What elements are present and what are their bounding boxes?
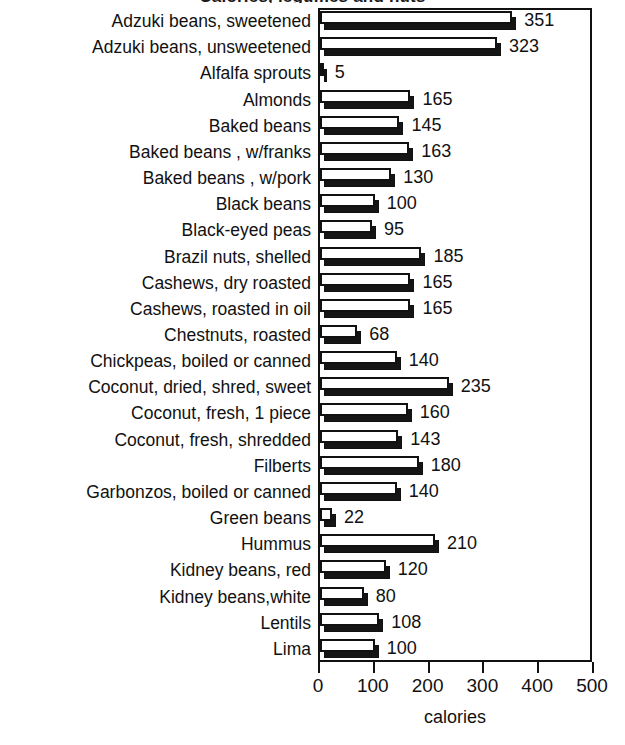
bar-value-label: 5 <box>335 63 345 82</box>
bar-face <box>320 430 398 443</box>
bar-face <box>320 273 410 286</box>
bar-face <box>320 168 391 181</box>
chart-row: Kidney beans,white80 <box>0 584 625 610</box>
bar-face <box>320 247 421 260</box>
bar <box>320 194 381 214</box>
bar <box>320 63 329 83</box>
bar-face <box>320 456 419 469</box>
bar-value-label: 95 <box>384 220 404 239</box>
chart-row: Chestnuts, roasted68 <box>0 322 625 348</box>
x-axis-tick <box>592 662 594 673</box>
x-axis-tick-label: 0 <box>313 675 324 697</box>
category-label: Coconut, dried, shred, sweet <box>88 378 311 397</box>
x-axis-tick <box>537 662 539 673</box>
bar-value-label: 120 <box>398 560 428 579</box>
bar-chart: Adzuki beans, sweetened351Adzuki beans, … <box>0 0 625 745</box>
category-label: Chickpeas, boiled or canned <box>90 352 311 371</box>
bar <box>320 534 441 554</box>
category-label: Coconut, fresh, 1 piece <box>131 404 311 423</box>
category-label: Coconut, fresh, shredded <box>114 430 311 449</box>
category-label: Kidney beans,white <box>159 587 311 606</box>
bar <box>320 613 385 633</box>
bar-face <box>320 194 375 207</box>
bar-face <box>320 482 397 495</box>
chart-row: Coconut, fresh, 1 piece160 <box>0 400 625 426</box>
category-label: Adzuki beans, unsweetened <box>92 38 311 57</box>
category-label: Baked beans <box>209 116 311 135</box>
bar-face <box>320 560 386 573</box>
bar <box>320 168 397 188</box>
bar-face <box>320 325 357 338</box>
chart-row: Cashews, dry roasted165 <box>0 270 625 296</box>
bar-value-label: 165 <box>422 89 452 108</box>
x-axis-tick <box>318 662 320 673</box>
category-label: Lentils <box>260 613 311 632</box>
bar-value-label: 22 <box>344 508 364 527</box>
x-axis-tick <box>428 662 430 673</box>
bar-face <box>320 639 375 652</box>
x-axis-tick-label: 100 <box>357 675 389 697</box>
bar-value-label: 235 <box>461 377 491 396</box>
category-label: Alfalfa sprouts <box>200 64 311 83</box>
bar-face <box>320 142 409 155</box>
x-axis-tick-labels: 0100200300400500 <box>318 675 592 699</box>
bar-value-label: 165 <box>422 298 452 317</box>
chart-row: Baked beans145 <box>0 113 625 139</box>
bar-value-label: 180 <box>431 455 461 474</box>
bar-value-label: 160 <box>420 403 450 422</box>
category-label: Almonds <box>243 90 311 109</box>
x-axis-title: calories <box>318 707 592 728</box>
chart-row: Lima100 <box>0 636 625 662</box>
category-label: Lima <box>273 639 311 658</box>
category-label: Black beans <box>216 195 311 214</box>
x-axis-tick <box>482 662 484 673</box>
chart-row: Black-eyed peas95 <box>0 217 625 243</box>
x-axis-tick <box>373 662 375 673</box>
bar-value-label: 108 <box>391 612 421 631</box>
category-label: Chestnuts, roasted <box>164 325 311 344</box>
bar-face <box>320 220 372 233</box>
chart-row: Green beans22 <box>0 505 625 531</box>
x-axis-tick-label: 400 <box>521 675 553 697</box>
category-label: Adzuki beans, sweetened <box>112 12 311 31</box>
bar-value-label: 185 <box>433 246 463 265</box>
bar-face <box>320 37 497 50</box>
chart-row: Brazil nuts, shelled185 <box>0 243 625 269</box>
bar <box>320 430 404 450</box>
category-label: Kidney beans, red <box>170 561 311 580</box>
bar <box>320 220 378 240</box>
chart-row: Coconut, dried, shred, sweet235 <box>0 374 625 400</box>
bar <box>320 325 363 345</box>
bar-value-label: 68 <box>369 325 389 344</box>
bar <box>320 90 416 110</box>
bar-face <box>320 613 379 626</box>
bar <box>320 456 425 476</box>
chart-row: Coconut, fresh, shredded143 <box>0 427 625 453</box>
x-axis-tick-label: 300 <box>467 675 499 697</box>
chart-row: Filberts180 <box>0 453 625 479</box>
bar-value-label: 351 <box>524 11 554 30</box>
bar-face <box>320 534 435 547</box>
category-label: Baked beans , w/pork <box>143 169 311 188</box>
bar-face <box>320 377 449 390</box>
bar <box>320 377 455 397</box>
bar <box>320 142 415 162</box>
bar-value-label: 130 <box>403 168 433 187</box>
chart-row: Adzuki beans, sweetened351 <box>0 8 625 34</box>
bar <box>320 403 414 423</box>
bar <box>320 116 405 136</box>
bar-value-label: 140 <box>409 351 439 370</box>
bar-face <box>320 403 408 416</box>
chart-row: Cashews, roasted in oil165 <box>0 296 625 322</box>
bar <box>320 508 338 528</box>
bar-value-label: 210 <box>447 534 477 553</box>
bar-value-label: 80 <box>376 586 396 605</box>
bar <box>320 299 416 319</box>
bar-face <box>320 299 410 312</box>
bar-face <box>320 587 364 600</box>
category-label: Hummus <box>241 535 311 554</box>
bar-value-label: 140 <box>409 482 439 501</box>
chart-row: Chickpeas, boiled or canned140 <box>0 348 625 374</box>
bar-face <box>320 351 397 364</box>
chart-row: Alfalfa sprouts5 <box>0 60 625 86</box>
